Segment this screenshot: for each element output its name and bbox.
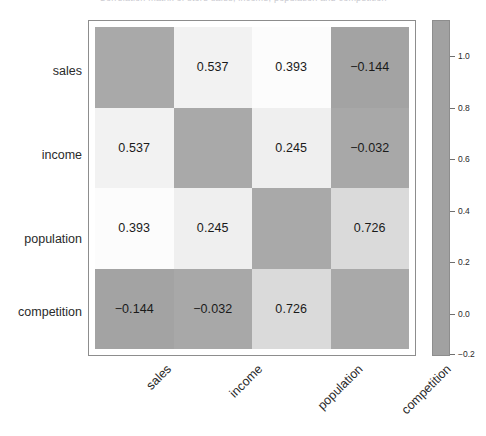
figure-title: Correlation matrix of store sales, incom… [0,0,486,3]
colorbar-tick-label: −0.2 [458,349,475,359]
colorbar-tick [450,262,455,263]
x-tick-label-income: income [227,362,265,400]
heatmap-cell: 0.245 [252,108,331,189]
y-tick-label-income: income [0,148,82,162]
heatmap-plot-area: 0.537 0.393 −0.144 0.537 0.245 −0.032 0.… [88,20,416,356]
heatmap-cell: 0.537 [174,27,253,108]
heatmap-cell: 0.245 [174,188,253,269]
colorbar-tick-label: 0.4 [458,206,470,216]
heatmap-grid: 0.537 0.393 −0.144 0.537 0.245 −0.032 0.… [95,27,409,349]
heatmap-cell: 0.537 [95,108,174,189]
colorbar-tick-label: 0.8 [458,103,470,113]
heatmap-cell: 0.726 [331,188,410,269]
heatmap-cell: −0.032 [331,108,410,189]
colorbar-tick-label: 1.0 [458,51,470,61]
colorbar-tick [450,211,455,212]
colorbar-tick [450,314,455,315]
heatmap-cell: 0.726 [252,269,331,350]
heatmap-cell [252,188,331,269]
heatmap-cell: −0.032 [174,269,253,350]
x-tick-label-sales: sales [144,362,175,393]
colorbar-tick [450,354,455,355]
heatmap-cell [174,108,253,189]
colorbar-tick [450,56,455,57]
heatmap-cell: 0.393 [95,188,174,269]
heatmap-cell: 0.393 [252,27,331,108]
colorbar-tick-label: 0.6 [458,154,470,164]
y-tick-label-competition: competition [0,305,82,319]
colorbar-tick [450,159,455,160]
colorbar-tick-label: 0.2 [458,257,470,267]
x-tick-label-competition: competition [399,362,454,417]
x-tick-label-population: population [315,362,366,413]
colorbar-tick-label: 0.0 [458,309,470,319]
heatmap-cell: −0.144 [331,27,410,108]
y-tick-label-population: population [0,232,82,246]
heatmap-cell [331,269,410,350]
heatmap-cell: −0.144 [95,269,174,350]
colorbar-gradient [432,20,450,356]
y-tick-label-sales: sales [0,64,82,78]
colorbar-tick [450,108,455,109]
heatmap-cell [95,27,174,108]
colorbar: 1.0 0.8 0.6 0.4 0.2 0.0 −0.2 [432,20,450,356]
